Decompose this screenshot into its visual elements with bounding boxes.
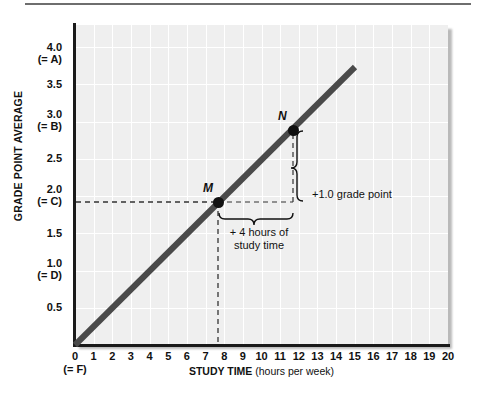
annotation-run-line1: + 4 hours of bbox=[230, 226, 288, 238]
x-axis-title-unit: (hours per week) bbox=[255, 365, 334, 377]
y-tick-3.0-grade: (= B) bbox=[22, 120, 62, 132]
x-tick-20: 20 bbox=[436, 350, 460, 362]
run-brace bbox=[219, 213, 293, 225]
y-tick-3.5: 3.5 bbox=[22, 78, 62, 90]
data-point-N-label: N bbox=[278, 109, 287, 123]
chart-figure: M N +1.0 grade point + 4 hours of study … bbox=[0, 0, 484, 396]
y-tick-1.5-value: 1.5 bbox=[47, 227, 62, 239]
y-tick-2.0: 2.0 (= C) bbox=[22, 183, 62, 207]
y-tick-1.0-value: 1.0 bbox=[47, 257, 62, 269]
y-tick-4.0-grade: (= A) bbox=[22, 53, 62, 65]
y-tick-3.0-value: 3.0 bbox=[47, 108, 62, 120]
y-tick-0.5: 0.5 bbox=[22, 301, 62, 313]
y-tick-2.0-grade: (= C) bbox=[22, 195, 62, 207]
x-axis-title-main: STUDY TIME bbox=[189, 365, 252, 377]
y-tick-1.5: 1.5 bbox=[22, 227, 62, 239]
y-tick-2.5: 2.5 bbox=[22, 152, 62, 164]
y-tick-4.0-value: 4.0 bbox=[47, 41, 62, 53]
y-tick-0.5-value: 0.5 bbox=[47, 301, 62, 313]
x-axis-title: STUDY TIME (hours per week) bbox=[75, 365, 448, 377]
data-point-M[interactable] bbox=[213, 197, 224, 208]
y-tick-1.0-grade: (= D) bbox=[22, 269, 62, 281]
y-tick-1.0: 1.0 (= D) bbox=[22, 257, 62, 281]
y-tick-3.0: 3.0 (= B) bbox=[22, 108, 62, 132]
x-tick-0-value: 0 bbox=[72, 350, 78, 362]
annotation-run-label: + 4 hours of study time bbox=[205, 226, 313, 252]
y-tick-3.5-value: 3.5 bbox=[47, 78, 62, 90]
data-point-N[interactable] bbox=[288, 125, 299, 136]
y-tick-2.0-value: 2.0 bbox=[47, 183, 62, 195]
y-axis-title: GRADE POINT AVERAGE bbox=[12, 76, 24, 236]
annotation-rise-label: +1.0 grade point bbox=[312, 188, 452, 201]
y-tick-4.0: 4.0 (= A) bbox=[22, 41, 62, 65]
data-point-M-label: M bbox=[203, 181, 213, 195]
annotation-run-line2: study time bbox=[234, 239, 284, 251]
y-tick-2.5-value: 2.5 bbox=[47, 152, 62, 164]
